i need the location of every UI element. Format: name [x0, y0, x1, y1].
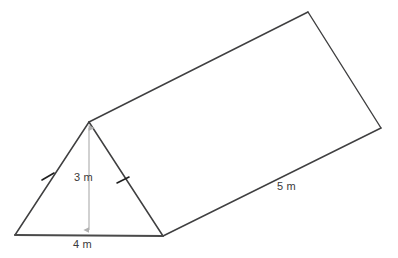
diagram-canvas: 3 m 4 m 5 m — [0, 0, 398, 258]
triangular-prism-figure — [0, 0, 398, 258]
prism-outline — [15, 12, 381, 236]
edge-prism-length — [163, 128, 381, 236]
edge-top-ridge — [89, 12, 308, 122]
edge-back-right — [308, 12, 381, 128]
height-label: 3 m — [74, 171, 93, 183]
edge-triangle-base — [15, 235, 163, 236]
length-label: 5 m — [277, 180, 296, 192]
base-label: 4 m — [73, 238, 92, 250]
